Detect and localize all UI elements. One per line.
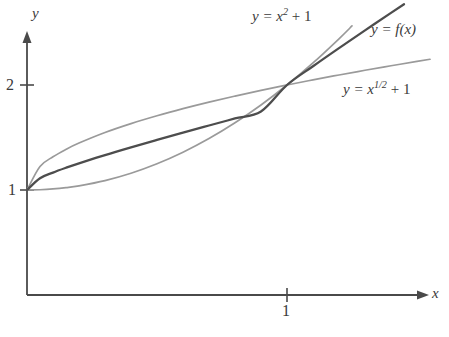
chart-figure: y = x2 + 1 y = f(x) y = x1/2 + 1 y x 2 1…	[0, 0, 449, 337]
curve-f-of-x	[27, 4, 404, 190]
plot-canvas	[0, 0, 449, 337]
y-axis-arrowhead	[23, 31, 32, 43]
y-tick-label-2: 2	[6, 77, 14, 93]
y-axis-label: y	[32, 6, 39, 21]
axes-group	[20, 31, 429, 302]
label-sqrt-exponent: 1/2	[374, 79, 387, 90]
x-tick-label-1: 1	[282, 303, 290, 319]
curve-label-f-of-x: y = f(x)	[371, 22, 416, 37]
label-sqrt-suffix: + 1	[387, 81, 410, 97]
label-sq-suffix: + 1	[288, 8, 311, 24]
curves-group	[27, 4, 430, 190]
x-axis-label: x	[432, 286, 439, 301]
curve-sqrt-x-plus-1	[27, 59, 430, 190]
label-sqrt-prefix: y = x	[343, 81, 374, 97]
curve-label-x-squared-plus-1: y = x2 + 1	[252, 7, 312, 24]
label-sq-prefix: y = x	[252, 8, 283, 24]
y-tick-label-1: 1	[8, 182, 16, 198]
x-axis-arrowhead	[417, 291, 429, 300]
curve-label-sqrt-x-plus-1: y = x1/2 + 1	[343, 80, 410, 97]
